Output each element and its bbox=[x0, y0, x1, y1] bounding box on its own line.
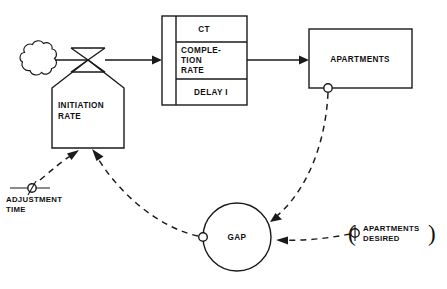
source-cloud-icon bbox=[20, 41, 56, 75]
gap-label: GAP bbox=[228, 233, 247, 242]
gap-info-source-marker bbox=[199, 233, 208, 242]
info-link-gap-to-initiation-rate bbox=[92, 149, 198, 236]
diagram-canvas: INITIATION RATE CT COMPLE- TION RATE DEL… bbox=[0, 0, 447, 289]
delay-block-node: CT COMPLE- TION RATE DELAY I bbox=[162, 16, 247, 105]
delay-block-row2-label-line3: RATE bbox=[181, 66, 204, 75]
apartments-desired-label-line1: APARTMENTS bbox=[363, 224, 420, 233]
apartments-label: APARTMENTS bbox=[330, 55, 390, 64]
delay-block-row2-label-line1: COMPLE- bbox=[181, 46, 221, 55]
apartments-desired-paren-right: ) bbox=[428, 221, 436, 246]
delay-block-row1-label: CT bbox=[198, 25, 210, 34]
initiation-rate-label-line2: RATE bbox=[58, 112, 81, 121]
apartments-info-source-marker bbox=[324, 84, 332, 92]
adjustment-time-node: ADJUSTMENT TIME bbox=[6, 181, 62, 214]
delay-block-row2-label-line2: TION bbox=[181, 56, 202, 65]
initiation-rate-node: INITIATION RATE bbox=[52, 48, 124, 148]
apartments-node: APARTMENTS bbox=[309, 29, 412, 92]
flow-initiation-to-delay bbox=[105, 56, 162, 65]
adjustment-time-label-line1: ADJUSTMENT bbox=[6, 195, 62, 204]
info-link-apartments-desired-to-gap bbox=[276, 234, 350, 245]
delay-block-row3-label: DELAY I bbox=[194, 88, 228, 97]
apartments-desired-label-line2: DESIRED bbox=[363, 234, 400, 243]
flow-delay-to-apartments bbox=[247, 56, 309, 65]
apartments-desired-node: ( APARTMENTS DESIRED ) bbox=[348, 221, 436, 246]
initiation-rate-label-line1: INITIATION bbox=[58, 101, 104, 110]
gap-node: GAP bbox=[199, 203, 271, 271]
info-link-apartments-to-gap bbox=[270, 93, 328, 222]
info-link-adjustment-time-to-initiation-rate bbox=[40, 150, 79, 180]
adjustment-time-label-line2: TIME bbox=[6, 205, 26, 214]
